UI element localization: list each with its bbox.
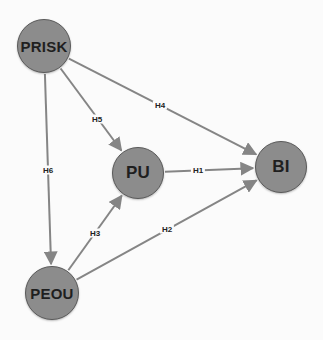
edge-label-h2: H2: [160, 225, 174, 234]
node-bi: BI: [255, 141, 307, 193]
edge-label-h5: H5: [90, 115, 104, 124]
edge-label-h3: H3: [88, 229, 102, 238]
node-label: BI: [272, 157, 289, 177]
edge-label-h4: H4: [153, 101, 167, 110]
edge-h1-arrow: [165, 168, 253, 172]
node-label: PU: [126, 163, 150, 183]
diagram-canvas: PRISKPUBIPEOU H1H2H3H4H5H6: [0, 0, 323, 340]
node-peou: PEOU: [25, 266, 79, 320]
node-pu: PU: [112, 147, 164, 199]
node-label: PRISK: [21, 38, 68, 55]
edge-label-h1: H1: [191, 166, 205, 175]
node-label: PEOU: [30, 285, 73, 302]
node-prisk: PRISK: [17, 19, 71, 73]
edge-label-h6: H6: [41, 166, 55, 175]
